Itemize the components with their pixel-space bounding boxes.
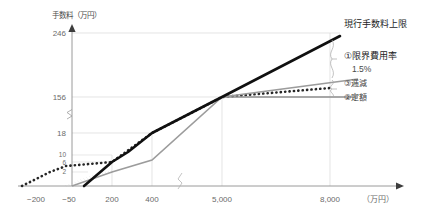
y-axis-arrow-icon	[68, 24, 75, 32]
x-tick-400: 400	[145, 195, 159, 204]
y-tick-18: 18	[57, 129, 66, 138]
series-label-flat: ②定額	[344, 92, 367, 102]
y-axis-title: 手数料（万円）	[52, 10, 101, 20]
y-tick-6: 6	[62, 159, 66, 166]
series-line-current-cap	[84, 36, 340, 186]
x-tick-8000: 8,000	[320, 195, 341, 204]
y-tick-246: 246	[53, 29, 67, 38]
chart-svg: 手数料（万円） 246 156 18 10 6 2 −200 −50 200 4…	[0, 0, 424, 222]
y-tick-156: 156	[53, 93, 67, 102]
x-tick-minus200: −200	[27, 195, 46, 204]
x-tick-200: 200	[105, 195, 119, 204]
x-tick-5000: 5,000	[212, 195, 233, 204]
series-line-declining	[22, 88, 330, 186]
x-axis-arrow-icon	[396, 182, 404, 189]
x-axis-break-icon	[178, 173, 182, 189]
y-tick-2: 2	[62, 168, 66, 175]
series-line-marginal-rate	[72, 79, 358, 186]
fee-schedule-chart: 手数料（万円） 246 156 18 10 6 2 −200 −50 200 4…	[0, 0, 424, 222]
y-tick-10: 10	[59, 151, 67, 158]
x-tick-minus50: −50	[62, 195, 76, 204]
y-axis-break-icon	[67, 110, 72, 120]
series-label-marginal-rate: ①限界費用率	[344, 50, 397, 61]
series-label-current-cap: 現行手数料上限	[344, 18, 407, 29]
series-label-marginal-rate-value: 1.5%	[352, 64, 372, 74]
gap-brace-upper	[331, 40, 337, 78]
series-line-marginal-rate-lowdotted	[66, 171, 112, 186]
x-axis-unit: （万円）	[362, 195, 394, 204]
axes	[18, 30, 398, 186]
series-label-declining: ③逓減	[344, 78, 367, 88]
